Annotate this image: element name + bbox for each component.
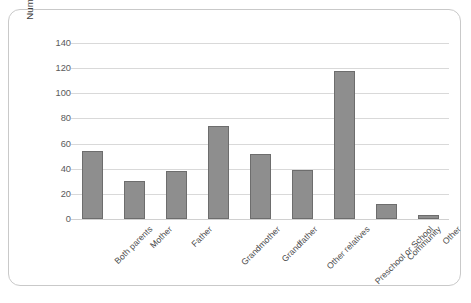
x-axis-tick-label: Grandmother [239,224,282,267]
bar [208,126,229,219]
bar [166,171,187,219]
x-axis-tick-label: Other [440,224,462,246]
x-axis-tick-label: Grandfather [280,224,320,264]
y-axis-tick-label: 140 [39,38,71,48]
x-axis-tick-label: Other relatives [325,224,372,271]
bar-series [71,43,449,219]
x-axis-tick-labels: Both parentsMotherFatherGrandmotherGrand… [71,220,449,300]
bar [334,71,355,219]
x-axis-tick-label: Both parents [112,224,154,266]
bar [292,170,313,219]
y-axis-tick-label: 100 [39,88,71,98]
y-axis-tick-labels: 020406080100120140 [39,10,71,230]
y-axis-title: Number of respondents [22,0,38,56]
bar [82,151,103,219]
y-axis-tick-label: 60 [39,139,71,149]
y-axis-tick-label: 120 [39,63,71,73]
bar [124,181,145,219]
y-axis-tick-label: 20 [39,189,71,199]
x-axis-tick-label: Father [189,224,214,249]
y-axis-tick-label: 80 [39,113,71,123]
bar [376,204,397,219]
y-axis-tick-label: 40 [39,164,71,174]
bar [418,215,439,219]
bar [250,154,271,219]
chart-frame: Number of respondents 020406080100120140… [8,9,461,286]
plot-area [71,43,449,219]
y-axis-tick-label: 0 [39,214,71,224]
